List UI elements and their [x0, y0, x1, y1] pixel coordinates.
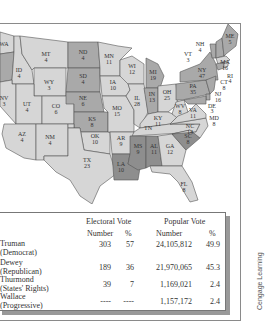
- header-pv-pct: %: [209, 229, 216, 238]
- ev-number: 189: [94, 263, 111, 272]
- svg-text:DE3: DE3: [208, 103, 216, 114]
- pv-pct: 2.4: [202, 280, 220, 289]
- results-table: Electoral Vote Popular Vote Number % Num…: [0, 212, 226, 311]
- pv-number: 21,970,065: [146, 263, 192, 272]
- state-az: [2, 124, 36, 160]
- svg-text:WA: WA: [0, 41, 9, 47]
- ev-pct: 57: [120, 240, 134, 249]
- pv-number: 24,105,812: [146, 240, 192, 249]
- ev-number: 303: [94, 240, 111, 249]
- state-de: [206, 94, 210, 100]
- pv-number: 1,169,021: [146, 280, 192, 289]
- pv-pct: 2.4: [202, 297, 220, 306]
- header-ev-number: Number: [87, 229, 113, 238]
- svg-text:WI12: WI12: [128, 63, 136, 75]
- pv-pct: 45.3: [202, 263, 220, 272]
- state-fl: [150, 166, 198, 202]
- svg-text:MD8: MD8: [209, 115, 219, 127]
- ev-pct: ----: [120, 297, 134, 306]
- ev-pct: 7: [120, 280, 134, 289]
- svg-text:NH4: NH4: [196, 41, 205, 53]
- svg-text:NJ16: NJ16: [215, 91, 222, 103]
- svg-text:MI19: MI19: [149, 69, 156, 81]
- candidate-party: (Progressive): [0, 302, 43, 311]
- header-pv-number: Number: [156, 229, 182, 238]
- pv-pct: 49.9: [202, 240, 220, 249]
- svg-text:TN: TN: [144, 125, 153, 131]
- ev-number: ----: [94, 297, 111, 306]
- svg-text:RI4: RI4: [227, 73, 233, 84]
- credit-text: Cengage Learning: [256, 252, 263, 310]
- header-popular-vote: Popular Vote: [164, 217, 205, 226]
- svg-text:IA10: IA10: [110, 79, 117, 91]
- header-electoral-vote: Electoral Vote: [86, 217, 131, 226]
- svg-text:CT8: CT8: [220, 79, 228, 91]
- candidate-party: (Democrat): [0, 249, 37, 258]
- ev-pct: 36: [120, 263, 134, 272]
- svg-text:IN13: IN13: [149, 91, 156, 103]
- state-nm: [36, 124, 68, 160]
- pv-number: 1,157,172: [146, 297, 192, 306]
- svg-text:IL28: IL28: [134, 95, 140, 107]
- ev-number: 39: [94, 280, 111, 289]
- header-ev-pct: %: [125, 229, 132, 238]
- svg-text:MA16: MA16: [220, 59, 230, 71]
- electoral-map: WA ID4 MT4 WY3 NV3 UT4 CO6 AZ4 NM4 ND4 S…: [0, 24, 241, 204]
- svg-text:VT3: VT3: [184, 51, 192, 63]
